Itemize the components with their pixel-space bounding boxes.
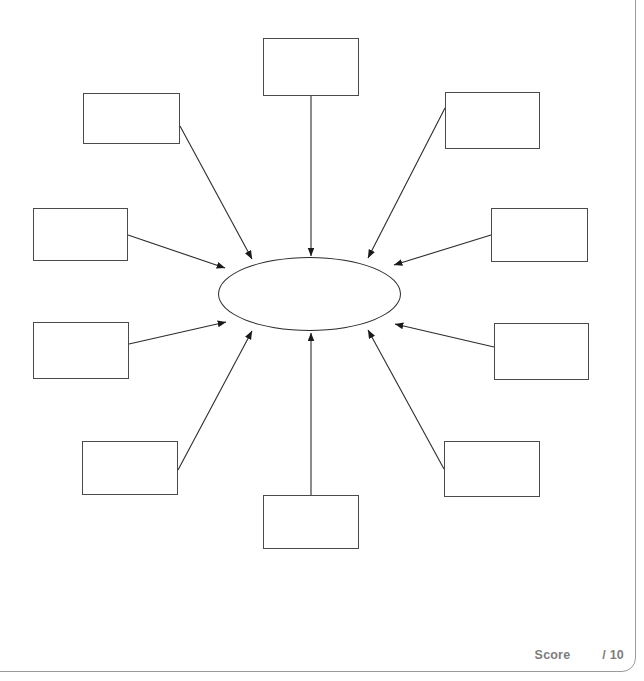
arrow-node-bottom-left — [178, 331, 252, 470]
node-upper-left[interactable] — [33, 208, 128, 261]
score-footer: Score / 10 — [0, 636, 644, 681]
arrow-node-lower-left — [129, 322, 226, 344]
arrow-node-top-left — [180, 126, 252, 259]
arrow-node-upper-right — [394, 235, 491, 265]
arrow-node-lower-right — [395, 324, 494, 347]
worksheet-page: Score / 10 — [0, 0, 644, 681]
node-bottom[interactable] — [263, 495, 359, 549]
node-lower-left[interactable] — [33, 322, 129, 379]
score-area: Score / 10 — [535, 646, 624, 662]
node-top[interactable] — [263, 38, 359, 96]
radial-concept-map-diagram — [0, 0, 644, 660]
center-oval[interactable] — [218, 257, 401, 331]
score-label: Score — [535, 648, 571, 662]
arrow-node-bottom-right — [368, 330, 444, 469]
node-bottom-left[interactable] — [82, 441, 178, 495]
node-lower-right[interactable] — [494, 323, 589, 380]
node-upper-right[interactable] — [491, 208, 588, 262]
arrow-node-top-right — [368, 108, 445, 258]
score-input[interactable] — [576, 646, 596, 659]
node-top-left[interactable] — [83, 93, 180, 144]
node-top-right[interactable] — [445, 92, 540, 149]
arrow-node-upper-left — [128, 235, 225, 268]
node-bottom-right[interactable] — [444, 441, 540, 497]
score-total: / 10 — [602, 648, 624, 662]
